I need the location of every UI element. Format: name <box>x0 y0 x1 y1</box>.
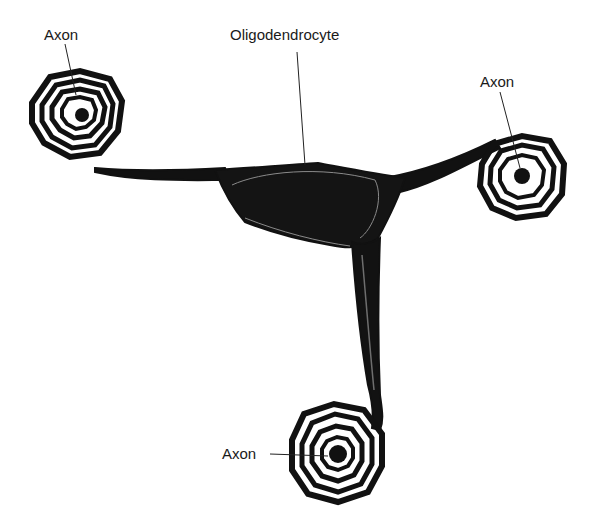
axon-right <box>480 136 564 218</box>
label-axon-right: Axon <box>480 73 514 90</box>
axon-top-left <box>32 71 122 157</box>
axon-bottom <box>292 404 382 502</box>
label-axon-bottom: Axon <box>222 445 256 462</box>
diagram-canvas: Axon Oligodendrocyte Axon Axon <box>0 0 602 527</box>
label-axon-top-left: Axon <box>44 26 78 43</box>
axon-bottom-leader <box>270 454 328 456</box>
oligodendrocyte-cell-body <box>95 140 500 430</box>
oligodendrocyte-leader <box>297 52 305 165</box>
label-oligodendrocyte: Oligodendrocyte <box>230 26 339 43</box>
